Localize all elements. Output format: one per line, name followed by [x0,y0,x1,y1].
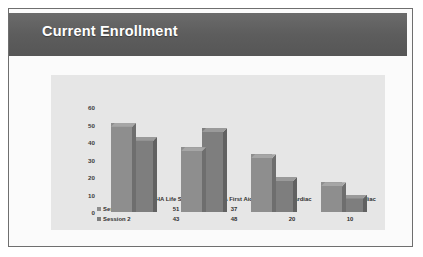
data-cell: 48 [205,216,263,222]
data-cell: 43 [147,216,205,222]
data-cell: 10 [321,216,379,222]
legend-item-session-2[interactable]: Session 2 [97,216,151,222]
legend-label: Session 2 [103,216,131,222]
bar-side-face [153,137,157,212]
title-banner: Current Enrollment [9,13,407,56]
bar-side-face [342,182,346,212]
y-axis-tick-20: 20 [69,174,95,181]
y-axis: 0102030405060 [69,75,95,230]
legend-swatch-icon [97,207,101,211]
bar-front-face [251,154,272,212]
y-axis-tick-50: 50 [69,121,95,128]
y-axis-tick-30: 30 [69,156,95,163]
table-row: Session 243482010 [97,216,385,227]
page-title: Current Enrollment [42,23,178,39]
bar-front-face [111,123,132,212]
slide-frame: Current Enrollment 0102030405060 AHA Lif… [8,8,413,247]
legend-swatch-icon [97,217,101,221]
y-axis-tick-0: 0 [69,209,95,216]
bar-top-face [111,123,136,127]
bar-side-face [223,128,227,212]
bar-side-face [202,147,206,212]
bar-side-face [132,123,136,212]
bar-top-face [251,154,276,158]
bar-session-1-advanced-cardiac[interactable] [321,182,342,212]
bar-top-face [202,128,227,132]
y-axis-tick-60: 60 [69,104,95,111]
y-axis-tick-40: 40 [69,139,95,146]
bar-top-face [321,182,346,186]
bar-side-face [293,177,297,212]
bar-session-1-aha-first-aid[interactable] [181,147,202,212]
bar-top-face [181,147,206,151]
enrollment-bar-chart[interactable]: 0102030405060 AHA Life SupportAHA First … [51,75,385,230]
data-cell: 20 [263,216,321,222]
bar-side-face [272,154,276,212]
bar-session-1-basic-cardiac[interactable] [251,154,272,212]
bar-session-1-aha-life-support[interactable] [111,123,132,212]
bar-front-face [181,147,202,212]
bar-front-face [321,182,342,212]
y-axis-tick-10: 10 [69,191,95,198]
